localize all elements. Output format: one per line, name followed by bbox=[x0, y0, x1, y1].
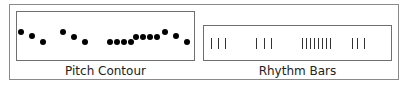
rhythm-bar bbox=[302, 38, 303, 49]
pitch-dot bbox=[82, 39, 88, 45]
rhythm-bar bbox=[218, 38, 219, 49]
pitch-dot bbox=[107, 39, 113, 45]
rhythm-bar bbox=[271, 38, 272, 49]
pitch-dot bbox=[140, 34, 146, 40]
pitch-dot bbox=[133, 34, 139, 40]
pitch-dot bbox=[60, 29, 66, 35]
pitch-dot bbox=[128, 39, 134, 45]
pitch-dot bbox=[121, 39, 127, 45]
rhythm-bar bbox=[322, 38, 323, 49]
pitch-dot bbox=[71, 34, 77, 40]
pitch-contour-panel bbox=[16, 11, 195, 61]
rhythm-bar bbox=[211, 38, 212, 49]
rhythm-bar bbox=[318, 38, 319, 49]
rhythm-bar bbox=[364, 38, 365, 49]
pitch-dot bbox=[40, 39, 46, 45]
pitch-dot bbox=[162, 29, 168, 35]
rhythm-bars-label: Rhythm Bars bbox=[203, 64, 392, 78]
pitch-dot bbox=[147, 34, 153, 40]
rhythm-bar bbox=[310, 38, 311, 49]
pitch-dot bbox=[173, 33, 179, 39]
pitch-dot bbox=[154, 34, 160, 40]
rhythm-bar bbox=[256, 38, 257, 49]
pitch-dot bbox=[18, 29, 24, 35]
rhythm-bar bbox=[264, 38, 265, 49]
pitch-contour-label: Pitch Contour bbox=[16, 64, 195, 78]
rhythm-bar bbox=[330, 38, 331, 49]
rhythm-bar bbox=[306, 38, 307, 49]
rhythm-bar bbox=[357, 38, 358, 49]
rhythm-bar bbox=[225, 38, 226, 49]
rhythm-bar bbox=[314, 38, 315, 49]
rhythm-bar bbox=[352, 38, 353, 49]
rhythm-bar bbox=[326, 38, 327, 49]
pitch-dot bbox=[184, 39, 190, 45]
pitch-dot bbox=[114, 39, 120, 45]
pitch-dot bbox=[29, 33, 35, 39]
